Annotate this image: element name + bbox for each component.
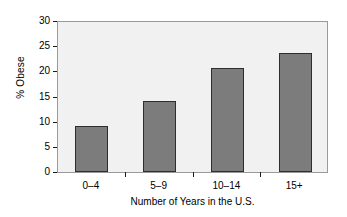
x-axis-tick-label: 0–4 <box>83 180 100 192</box>
x-axis-tick-marks <box>57 172 328 178</box>
y-axis-tick-label: 25 <box>30 41 50 51</box>
y-axis-tick-label: 20 <box>30 66 50 76</box>
y-axis-tick-labels: 051015202530 <box>28 0 50 217</box>
x-axis-tick-mark <box>260 172 261 177</box>
bar-chart-figure: % Obese 051015202530 0–45–910–1415+ Numb… <box>0 0 347 217</box>
x-axis-tick-labels: 0–45–910–1415+ <box>57 180 328 194</box>
y-axis-label: % Obese <box>15 33 26 123</box>
x-axis-tick-mark <box>193 172 194 177</box>
y-axis-tick-label: 15 <box>30 92 50 102</box>
bar <box>75 126 108 173</box>
bar <box>143 101 176 173</box>
plot-area <box>57 21 328 173</box>
x-axis-tick-label: 5–9 <box>150 180 167 192</box>
bars-container <box>58 22 327 172</box>
x-axis-label: Number of Years in the U.S. <box>57 196 328 207</box>
y-axis-tick-label: 5 <box>30 142 50 152</box>
x-axis-tick-mark <box>125 172 126 177</box>
bar <box>279 53 312 173</box>
x-axis-tick-label: 10–14 <box>212 180 240 192</box>
y-axis-tick-label: 0 <box>30 167 50 177</box>
y-axis-tick-label: 30 <box>30 16 50 26</box>
y-axis-tick-label: 10 <box>30 117 50 127</box>
x-axis-tick-label: 15+ <box>286 180 303 192</box>
bar <box>211 68 244 172</box>
